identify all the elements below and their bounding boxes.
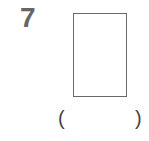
answer-close-paren: ) [135, 108, 142, 128]
answer-open-paren: ( [58, 108, 65, 128]
rectangle-figure [73, 13, 127, 97]
question-number: 7 [20, 4, 36, 32]
answer-blank[interactable] [72, 108, 132, 130]
